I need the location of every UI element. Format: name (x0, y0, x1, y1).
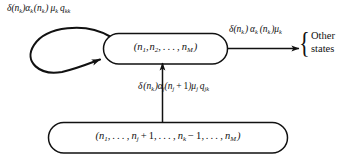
arrival-transition-rate-label: δ (nk )αj(nj + 1)μj qjk (138, 82, 209, 92)
self-loop-rate-label: δ(nk)αk (nk ) μk qkk (7, 4, 70, 14)
bottom-state-label: (n1, . . . , nj + 1, . . . , nk − 1, . .… (48, 130, 288, 142)
other-states-line-2: states (311, 43, 335, 56)
top-state-label: (n1, n2, . . . , nM ) (103, 41, 228, 53)
exit-transition-rate-label: δ(nk ) αk (nk )μk (229, 25, 282, 35)
other-states-label: Other states (311, 30, 335, 56)
state-transition-diagram: δ(nk)αk (nk ) μk qkk δ(nk ) αk (nk )μk δ… (0, 0, 357, 161)
other-states-line-1: Other (311, 30, 335, 43)
other-states-brace: { (299, 25, 310, 59)
self-loop-arrow (31, 28, 110, 73)
